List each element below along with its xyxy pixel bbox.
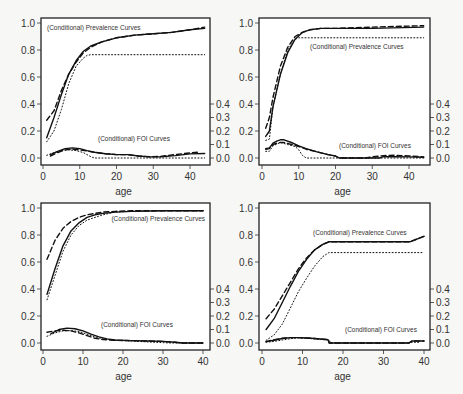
x-tick-label: 30 — [148, 171, 160, 182]
y2-tick-label: 0.0 — [216, 153, 230, 164]
x-tick-label: 40 — [418, 356, 430, 367]
x-tick-label: 20 — [111, 171, 123, 182]
x-tick-label: 10 — [77, 356, 89, 367]
y2-tick-label: 0.3 — [436, 112, 450, 123]
panel-bottom-right: 0.00.20.40.60.81.00.00.10.20.30.40102030… — [239, 203, 450, 383]
y-tick-label: 1.0 — [21, 203, 35, 214]
chart-figure: 0.00.20.40.60.81.00.00.10.20.30.40102030… — [0, 0, 463, 394]
x-tick-label: 0 — [40, 356, 46, 367]
y2-tick-label: 0.1 — [436, 324, 450, 335]
y-tick-label: 0.0 — [21, 153, 35, 164]
y-tick-label: 0.6 — [239, 72, 253, 83]
y-tick-label: 0.4 — [239, 99, 253, 110]
x-tick-label: 10 — [293, 171, 305, 182]
foi-annotation: (Conditional) FOI Curves — [339, 142, 412, 150]
y2-tick-label: 0.4 — [216, 99, 230, 110]
y2-tick-label: 0.0 — [216, 338, 230, 349]
y-tick-label: 0.0 — [239, 338, 253, 349]
y2-tick-label: 0.2 — [216, 311, 230, 322]
x-tick-label: 20 — [337, 356, 349, 367]
y-tick-label: 0.8 — [21, 230, 35, 241]
x-axis-label: age — [334, 371, 351, 382]
x-tick-label: 0 — [40, 171, 46, 182]
y-tick-label: 0.6 — [239, 257, 253, 268]
y-tick-label: 0.0 — [21, 338, 35, 349]
y-tick-label: 1.0 — [239, 18, 253, 29]
y-tick-label: 0.6 — [21, 257, 35, 268]
y-tick-label: 0.4 — [21, 99, 35, 110]
x-tick-label: 40 — [403, 171, 415, 182]
y-tick-label: 0.0 — [239, 153, 253, 164]
y-tick-label: 0.2 — [21, 126, 35, 137]
y2-tick-label: 0.4 — [436, 284, 450, 295]
y2-tick-label: 0.1 — [216, 139, 230, 150]
y-tick-label: 1.0 — [21, 18, 35, 29]
y-tick-label: 1.0 — [239, 203, 253, 214]
foi-annotation: (Conditional) FOI Curves — [98, 135, 171, 143]
prevalence-annotation: (Conditional) Prevalence Curves — [111, 215, 205, 223]
y-tick-label: 0.8 — [239, 45, 253, 56]
prevalence-annotation: (Conditional) Prevalence Curves — [310, 43, 404, 51]
y-tick-label: 0.4 — [21, 284, 35, 295]
y-tick-label: 0.8 — [239, 230, 253, 241]
y2-tick-label: 0.1 — [436, 139, 450, 150]
y2-tick-label: 0.1 — [216, 324, 230, 335]
x-axis-label: age — [115, 186, 132, 197]
y2-tick-label: 0.3 — [216, 297, 230, 308]
panel-bottom-left: 0.00.20.40.60.81.00.00.10.20.30.40102030… — [21, 203, 230, 383]
x-tick-label: 0 — [259, 356, 265, 367]
x-axis-label: age — [115, 371, 132, 382]
panel-top-left: 0.00.20.40.60.81.00.00.10.20.30.40102030… — [21, 18, 230, 198]
x-tick-label: 20 — [330, 171, 342, 182]
prevalence-annotation: (Conditional) Prevalence Curves — [313, 229, 407, 237]
foi-annotation: (Conditional) FOI Curves — [345, 326, 418, 334]
x-tick-label: 30 — [378, 356, 390, 367]
y-tick-label: 0.4 — [239, 284, 253, 295]
y-tick-label: 0.8 — [21, 45, 35, 56]
y2-tick-label: 0.2 — [436, 126, 450, 137]
y2-tick-label: 0.4 — [216, 284, 230, 295]
x-tick-label: 10 — [74, 171, 86, 182]
y2-tick-label: 0.2 — [216, 126, 230, 137]
y2-tick-label: 0.0 — [436, 153, 450, 164]
x-tick-label: 10 — [297, 356, 309, 367]
prevalence-annotation: (Conditional) Prevalence Curves — [47, 24, 141, 32]
y2-tick-label: 0.2 — [436, 311, 450, 322]
panel-top-right: 0.00.20.40.60.81.00.00.10.20.30.40102030… — [239, 18, 450, 198]
y2-tick-label: 0.3 — [216, 112, 230, 123]
foi-annotation: (Conditional) FOI Curves — [101, 321, 174, 329]
x-tick-label: 30 — [157, 356, 169, 367]
x-tick-label: 20 — [117, 356, 129, 367]
y2-tick-label: 0.0 — [436, 338, 450, 349]
y-tick-label: 0.2 — [239, 126, 253, 137]
y-tick-label: 0.6 — [21, 72, 35, 83]
y-tick-label: 0.2 — [21, 311, 35, 322]
x-tick-label: 0 — [259, 171, 265, 182]
y2-tick-label: 0.3 — [436, 297, 450, 308]
x-tick-label: 40 — [197, 356, 209, 367]
x-axis-label: age — [334, 186, 351, 197]
y-tick-label: 0.2 — [239, 311, 253, 322]
x-tick-label: 30 — [367, 171, 379, 182]
y2-tick-label: 0.4 — [436, 99, 450, 110]
x-tick-label: 40 — [184, 171, 196, 182]
